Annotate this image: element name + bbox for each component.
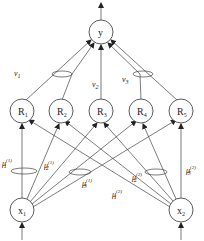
node-hidden-R1: R1 <box>10 99 34 123</box>
node-hidden-R4: R4 <box>129 99 153 123</box>
node-input-x1: x1 <box>10 198 34 222</box>
weight-group-ellipse-v1 <box>52 71 72 77</box>
weight-label-mu3-1: μ(1)3 <box>81 178 92 189</box>
node-hidden-R3: R3 <box>89 99 113 123</box>
network-diagram: yR1R2R3R4R5x1x2 ν1ν2ν3μ(1)1μ(1)2μ(1)3μ(2… <box>0 0 204 241</box>
weight-label-mu1-1: μ(1)1 <box>1 158 12 169</box>
node-hidden-R2: R2 <box>49 99 73 123</box>
node-input-x2: x2 <box>169 198 193 222</box>
node-output-y: y <box>89 20 113 44</box>
weight-label-mu2-2: μ(2)2 <box>131 172 142 183</box>
weight-label-mu1-2: μ(2)1 <box>111 189 122 200</box>
node-hidden-R5: R5 <box>169 99 193 123</box>
weight-label-nu2: ν2 <box>92 80 99 90</box>
hidden-to-output-edges <box>26 40 177 100</box>
weight-group-ellipse-mu1 <box>11 168 37 174</box>
weight-label-nu3: ν3 <box>122 75 129 85</box>
weight-group-ellipse-v3 <box>133 71 153 77</box>
weight-label-mu2-1: μ(1)2 <box>43 160 54 171</box>
weight-label-mu3-2: μ(2)3 <box>185 165 196 176</box>
weight-label-nu1: ν1 <box>14 69 21 79</box>
weight-group-ellipse-mu2-2 <box>145 169 167 175</box>
node-label: y <box>98 27 103 38</box>
